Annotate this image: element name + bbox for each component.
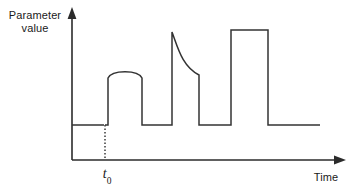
t0-symbol: t [103, 166, 107, 181]
x-axis-label: Time [304, 171, 348, 184]
y-axis-arrowhead [68, 7, 77, 19]
waveform-figure: Parameter value Time t0 [0, 0, 352, 196]
t0-label: t0 [92, 166, 122, 184]
signal-trace [72, 30, 320, 125]
t0-subscript: 0 [107, 176, 112, 186]
y-axis-label: Parameter value [4, 9, 66, 34]
x-axis-arrowhead [334, 155, 346, 164]
